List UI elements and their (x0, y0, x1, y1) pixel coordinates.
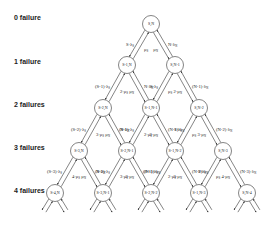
label-right-fail: N·λN (168, 42, 178, 48)
label-right-fail: (N-3)·λN (240, 169, 257, 175)
continuation-arrow (90, 199, 97, 210)
continuation-arrow (253, 199, 260, 210)
continuation-arrow (61, 199, 68, 210)
continuation-arrow (186, 199, 193, 210)
continuation-arrow (42, 199, 49, 210)
label-left-repair: 2·μS (120, 89, 128, 95)
label-left-fail: (S-1)·λS (95, 84, 110, 90)
label-left-repair: μS (168, 89, 172, 95)
continuation-arrow (234, 199, 241, 210)
label-left-fail: (S-3)·λS (47, 169, 62, 175)
label-right-repair: 3·μN (197, 132, 206, 138)
continuation-arrow (205, 199, 212, 210)
label-left-fail: (S-2)·λS (71, 127, 86, 133)
continuation-arrow (138, 199, 145, 210)
label-left-repair: 4·μS (72, 174, 80, 180)
label-right-repair: μN (105, 132, 110, 138)
continuation-arrow (58, 201, 65, 212)
markov-state-diagram: S,NS-1,NS,N-1S-2,NS-1,N-1S,N-2S-3,NS-2,N… (0, 0, 278, 225)
continuation-arrow (142, 201, 149, 212)
continuation-arrow (154, 201, 161, 212)
continuation-arrow (238, 201, 245, 212)
label-right-repair: μN (129, 89, 134, 95)
label-left-repair: μS (144, 47, 148, 53)
label-left-repair: 3·μS (96, 132, 104, 138)
label-right-repair: μN (153, 47, 158, 53)
label-right-fail: (N-1)·λN (192, 84, 209, 90)
continuation-arrow (94, 201, 101, 212)
label-left-fail: S·λS (126, 42, 134, 48)
continuation-arrow (202, 201, 209, 212)
continuation-arrow (157, 199, 164, 210)
label-left-repair: μS (192, 132, 196, 138)
label-right-fail: (N-2)·λN (216, 127, 233, 133)
continuation-arrow (109, 199, 116, 210)
label-right-repair: 2·μN (173, 89, 182, 95)
label-left-fail: (S-1)·λS (143, 169, 158, 175)
continuation-arrow (46, 201, 53, 212)
label-left-repair: μS (216, 174, 220, 180)
label-right-repair: μN (81, 174, 86, 180)
continuation-arrow (190, 201, 197, 212)
continuation-arrow (250, 201, 257, 212)
continuation-arrow (106, 201, 113, 212)
label-right-repair: 4·μN (221, 174, 230, 180)
